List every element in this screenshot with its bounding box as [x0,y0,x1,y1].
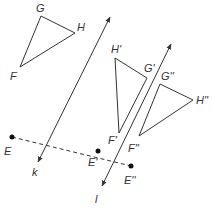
line-k [38,17,110,162]
label-e: E [4,145,12,157]
triangle-fgh-double-prime [139,84,193,136]
label-e-double-prime: E'' [124,174,136,186]
label-f-prime: F' [108,134,118,146]
label-e-prime: E' [88,156,98,168]
label-h-prime: H' [111,43,122,55]
point-e-prime [96,149,101,154]
line-l [102,44,171,186]
point-e-double-prime [129,164,134,169]
label-g: G [36,2,45,14]
label-f-double-prime: F'' [128,142,140,154]
point-e [10,135,15,140]
reflection-diagram: G H F k l H' G' F' G'' H'' F'' E E' E'' [0,0,212,208]
label-f: F [10,70,18,82]
triangle-fgh [20,16,75,67]
label-k: k [32,166,38,178]
label-g-prime: G' [144,62,156,74]
label-h: H [77,21,85,33]
label-g-double-prime: G'' [161,70,175,82]
label-h-double-prime: H'' [196,94,209,106]
triangle-fgh-prime [115,58,147,133]
label-l: l [95,193,98,205]
